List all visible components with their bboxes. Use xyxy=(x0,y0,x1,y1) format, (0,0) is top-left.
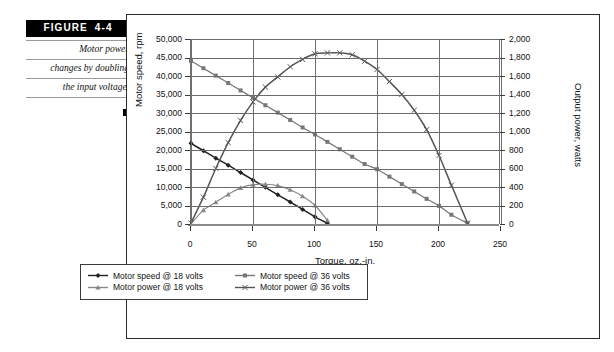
data-point-marker xyxy=(362,59,367,64)
legend-label-speed-36v: Motor speed @ 36 volts xyxy=(260,271,350,281)
y-axis-tick-mark-right xyxy=(500,76,505,77)
x-axis-tick-label: 50 xyxy=(232,240,272,249)
legend-key-speed-18v xyxy=(87,271,109,280)
caption-end-marker xyxy=(26,98,130,120)
y-axis-tick-mark-right xyxy=(500,95,505,96)
legend-item-power-18v[interactable]: Motor power @ 18 volts xyxy=(87,282,222,292)
legend-item-speed-36v[interactable]: Motor speed @ 36 volts xyxy=(226,271,361,281)
y-axis-tick-mark-right xyxy=(500,187,505,188)
data-point-marker xyxy=(96,273,101,278)
x-axis-tick-mark xyxy=(500,226,501,231)
y-axis-tick-label-right: 1,000 xyxy=(509,127,530,136)
legend-key-speed-36v xyxy=(234,271,256,280)
y-axis-tick-label-left: 50,000 xyxy=(130,35,182,44)
y-axis-tick-mark-left xyxy=(185,187,190,188)
data-point-marker xyxy=(400,182,404,186)
legend-row-2: Motor power @ 18 volts Motor power @ 36 … xyxy=(87,282,361,292)
y-axis-tick-mark-left xyxy=(185,39,190,40)
x-axis-tick-mark xyxy=(376,226,377,231)
y-axis-tick-label-right: 1,600 xyxy=(509,72,530,81)
y-axis-title-right: Output power, watts xyxy=(573,83,584,203)
y-axis-tick-label-left: 5,000 xyxy=(130,201,182,210)
gridline-horizontal xyxy=(191,169,499,170)
gridline-horizontal xyxy=(191,95,499,96)
gridline-horizontal xyxy=(191,76,499,77)
data-point-marker xyxy=(350,155,354,159)
series-line xyxy=(191,184,327,224)
data-point-marker xyxy=(239,88,243,92)
gridline-vertical xyxy=(191,39,192,224)
gridline-horizontal xyxy=(191,39,499,40)
legend-label-speed-18v: Motor speed @ 18 volts xyxy=(113,271,203,281)
data-point-marker xyxy=(226,140,231,145)
x-axis-tick-label: 0 xyxy=(170,240,210,249)
figure-number-banner: FIGURE4-4 xyxy=(26,20,130,37)
y-axis-tick-label-right: 800 xyxy=(509,146,523,155)
y-axis-tick-label-left: 35,000 xyxy=(130,90,182,99)
data-point-marker xyxy=(325,140,329,144)
x-axis-tick-label: 250 xyxy=(480,240,520,249)
y-axis-tick-label-left: 20,000 xyxy=(130,146,182,155)
x-axis-tick-label: 150 xyxy=(356,240,396,249)
y-axis-tick-label-right: 1,200 xyxy=(509,109,530,118)
gridline-vertical xyxy=(439,39,440,224)
data-point-marker xyxy=(243,274,247,278)
data-point-marker xyxy=(238,118,243,123)
data-point-marker xyxy=(301,125,305,129)
chart-legend: Motor speed @ 18 volts Motor speed @ 36 … xyxy=(80,264,368,300)
figure-page: FIGURE4-4 Motor power changes by doublin… xyxy=(0,0,614,352)
gridline-horizontal xyxy=(191,224,499,226)
x-axis-tick-mark xyxy=(314,226,315,231)
y-axis-tick-label-right: 600 xyxy=(509,164,523,173)
y-axis-tick-label-left: 30,000 xyxy=(130,109,182,118)
data-point-marker xyxy=(201,66,205,70)
data-point-marker xyxy=(263,85,268,90)
data-point-marker xyxy=(213,200,218,205)
y-axis-tick-mark-right xyxy=(500,39,505,40)
gridline-horizontal xyxy=(191,113,499,114)
legend-label-power-36v: Motor power @ 36 volts xyxy=(260,282,350,292)
legend-key-power-36v xyxy=(234,283,256,292)
y-axis-tick-mark-left xyxy=(185,95,190,96)
data-point-marker xyxy=(226,81,230,85)
y-axis-tick-mark-left xyxy=(185,76,190,77)
y-axis-tick-mark-left xyxy=(185,132,190,133)
caption-line-1: Motor power xyxy=(26,40,130,60)
y-axis-tick-mark-left xyxy=(185,113,190,114)
y-axis-tick-label-right: 0 xyxy=(509,220,514,229)
legend-item-speed-18v[interactable]: Motor speed @ 18 volts xyxy=(87,271,222,281)
y-axis-tick-label-right: 200 xyxy=(509,201,523,210)
gridline-horizontal xyxy=(191,150,499,151)
y-axis-tick-label-right: 2,000 xyxy=(509,35,530,44)
legend-item-power-36v[interactable]: Motor power @ 36 volts xyxy=(226,282,361,292)
caption-line-2: changes by doubling xyxy=(26,60,130,79)
legend-row-1: Motor speed @ 18 volts Motor speed @ 36 … xyxy=(87,271,361,281)
data-point-marker xyxy=(387,175,391,179)
x-axis-tick-mark xyxy=(438,226,439,231)
y-axis-tick-mark-left xyxy=(185,169,190,170)
y-axis-tick-mark-left xyxy=(185,224,190,225)
y-axis-tick-label-left: 40,000 xyxy=(130,72,182,81)
gridline-horizontal xyxy=(191,187,499,188)
y-axis-tick-label-right: 1,800 xyxy=(509,53,530,62)
data-point-marker xyxy=(288,64,293,69)
legend-key-power-18v xyxy=(87,283,109,292)
y-axis-tick-mark-right xyxy=(500,58,505,59)
caption-line-3: the input voltage. xyxy=(26,79,130,98)
y-axis-tick-label-left: 10,000 xyxy=(130,183,182,192)
x-axis-tick-label: 200 xyxy=(418,240,458,249)
series-2 xyxy=(188,182,330,226)
gridline-vertical xyxy=(253,39,254,224)
y-axis-tick-label-left: 25,000 xyxy=(130,127,182,136)
data-point-marker xyxy=(288,118,292,122)
figure-label-word: FIGURE xyxy=(43,23,87,33)
data-point-marker xyxy=(449,213,453,217)
y-axis-tick-mark-left xyxy=(185,58,190,59)
gridline-horizontal xyxy=(191,132,499,133)
data-point-marker xyxy=(412,189,416,193)
gridline-horizontal xyxy=(191,206,499,207)
y-axis-tick-label-left: 45,000 xyxy=(130,53,182,62)
gridline-vertical xyxy=(315,39,316,224)
y-axis-tick-label-right: 1,400 xyxy=(509,90,530,99)
data-point-marker xyxy=(263,103,267,107)
